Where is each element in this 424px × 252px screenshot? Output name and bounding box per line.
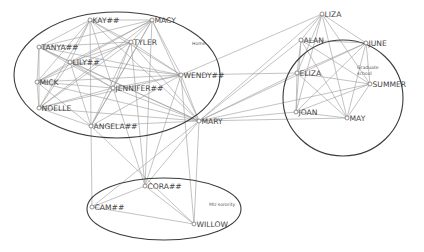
node-circle-icon xyxy=(320,12,324,16)
node-label: MAY xyxy=(350,114,366,123)
node-circle-icon xyxy=(111,86,115,90)
node-angela[interactable]: ANGELA## xyxy=(89,122,137,131)
node-circle-icon xyxy=(89,124,93,128)
node-label: MARY xyxy=(202,117,224,126)
node-lily[interactable]: LILY## xyxy=(68,58,100,67)
node-circle-icon xyxy=(88,18,92,22)
node-label: JOAN xyxy=(298,108,318,117)
node-circle-icon xyxy=(129,40,133,44)
node-label: JUNE xyxy=(368,39,387,48)
node-june[interactable]: JUNE xyxy=(364,39,387,48)
network-canvas: HomeGraduateschoolMU sorority KAY##MACYT… xyxy=(0,0,424,252)
node-may[interactable]: MAY xyxy=(345,114,366,123)
node-label: MICK xyxy=(40,78,60,87)
node-joan[interactable]: JOAN xyxy=(294,108,317,117)
node-circle-icon xyxy=(294,110,298,114)
node-circle-icon xyxy=(37,106,41,110)
node-noelle[interactable]: NOELLE xyxy=(37,104,71,113)
node-label: WENDY## xyxy=(184,71,225,80)
node-label: JENNIFER## xyxy=(115,84,164,93)
cluster-label-sorority: MU sorority xyxy=(209,202,236,207)
node-label: KAY## xyxy=(93,16,120,25)
node-label: ANGELA## xyxy=(94,122,138,131)
node-alan[interactable]: ALAN xyxy=(299,36,324,45)
edge-wendy-willow xyxy=(181,75,194,224)
cluster-grad xyxy=(283,40,403,156)
node-jennifer[interactable]: JENNIFER## xyxy=(111,84,163,93)
cluster-label-grad: school xyxy=(357,71,372,76)
cluster-label-grad: Graduate xyxy=(357,65,379,70)
cluster-label-home: Home xyxy=(192,41,206,46)
edge-mary-willow xyxy=(194,121,199,224)
edge-mary-cora xyxy=(145,121,199,186)
node-willow[interactable]: WILLOW xyxy=(192,220,228,229)
node-eliza[interactable]: ELIZA xyxy=(295,69,322,78)
node-wendy[interactable]: WENDY## xyxy=(179,71,224,80)
node-mary[interactable]: MARY xyxy=(197,117,223,126)
node-circle-icon xyxy=(68,60,72,64)
node-circle-icon xyxy=(150,18,154,22)
network-diagram: HomeGraduateschoolMU sorority KAY##MACYT… xyxy=(0,0,424,252)
node-circle-icon xyxy=(143,184,147,188)
node-label: CORA## xyxy=(148,182,182,191)
node-kay[interactable]: KAY## xyxy=(88,16,119,25)
node-circle-icon xyxy=(364,41,368,45)
edge-june-summer xyxy=(366,43,370,84)
edge-tyler-mary xyxy=(131,42,199,121)
node-circle-icon xyxy=(197,119,201,123)
node-label: MACY xyxy=(155,16,177,25)
node-circle-icon xyxy=(345,116,349,120)
node-circle-icon xyxy=(299,38,303,42)
node-circle-icon xyxy=(192,222,196,226)
node-label: TYLER xyxy=(133,38,158,47)
edge-jennifer-angela xyxy=(91,88,113,126)
node-circle-icon xyxy=(179,73,183,77)
node-circle-icon xyxy=(90,205,94,209)
node-label: ALAN xyxy=(304,36,324,45)
edge-macy-wendy xyxy=(152,20,181,75)
node-label: CAM## xyxy=(95,203,125,212)
node-liza[interactable]: LIZA xyxy=(320,10,342,19)
edge-mary-cam xyxy=(92,121,199,207)
node-circle-icon xyxy=(295,71,299,75)
node-cam[interactable]: CAM## xyxy=(90,203,124,212)
node-label: WILLOW xyxy=(197,220,229,229)
node-circle-icon xyxy=(35,80,39,84)
node-tyler[interactable]: TYLER xyxy=(129,38,158,47)
node-cora[interactable]: CORA## xyxy=(143,182,182,191)
node-summer[interactable]: SUMMER xyxy=(368,80,407,89)
node-label: LIZA xyxy=(325,10,343,19)
edge-summer-may xyxy=(347,84,370,118)
node-macy[interactable]: MACY xyxy=(150,16,176,25)
node-circle-icon xyxy=(37,45,41,49)
node-label: TANYA## xyxy=(41,43,79,52)
edge-kay-angela xyxy=(90,20,91,126)
node-label: SUMMER xyxy=(373,80,407,89)
node-tanya[interactable]: TANYA## xyxy=(37,43,78,52)
edge-liza-may xyxy=(322,14,347,118)
node-label: LILY## xyxy=(73,58,100,67)
edge-cora-willow xyxy=(145,186,194,224)
node-label: NOELLE xyxy=(42,104,72,113)
edge-kay-lily xyxy=(70,20,90,62)
edge-alan-may xyxy=(301,40,347,118)
node-mick[interactable]: MICK xyxy=(35,78,60,87)
edge-angela-cam xyxy=(91,126,92,207)
edge-tyler-jennifer xyxy=(113,42,131,88)
node-label: ELIZA xyxy=(300,69,322,78)
node-circle-icon xyxy=(368,82,372,86)
